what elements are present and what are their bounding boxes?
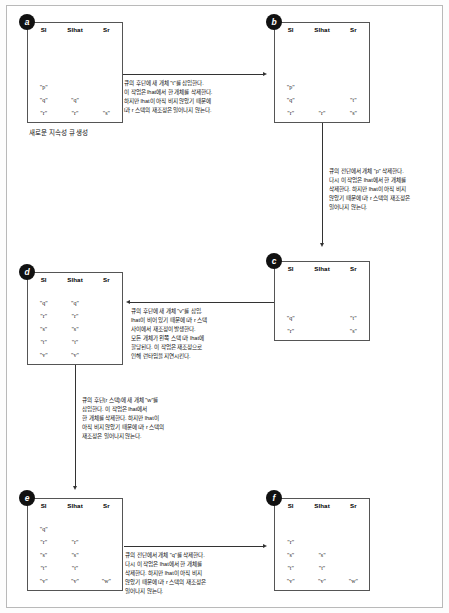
panel-e-column-headers: Sl Slhat Sr <box>28 502 122 509</box>
cell: "t" <box>28 565 59 571</box>
table-row: "q" "t" <box>275 311 369 324</box>
panel-box-f: Sl Slhat Sr "r" "s" "s" "t" "t" <box>274 498 370 591</box>
cell: "r" <box>275 539 306 545</box>
note-line: 일어나지 않는다. <box>329 203 410 212</box>
cell: "r" <box>306 110 337 116</box>
panel-d-column-headers: Sl Slhat Sr <box>28 276 122 283</box>
note-line: 이 작업은 lhat에서 한 개체를 삭제한다. <box>124 88 212 97</box>
table-row: "v" "v" <box>28 348 122 361</box>
panel-b-column-headers: Sl Slhat Sr <box>275 26 369 33</box>
cell: "r" <box>28 110 59 116</box>
connector-e-to-f <box>124 546 264 547</box>
table-row: "s" "s" <box>275 548 369 561</box>
table-row: "p" <box>275 80 369 93</box>
panel-badge-b: b <box>266 14 282 30</box>
panel-a-col-slhat: Slhat <box>59 26 90 33</box>
panel-e-rows: "q" "r" "r" "s" "s" "t" "t" <box>28 522 122 587</box>
table-row: "r" "r" "s" <box>28 106 122 119</box>
note-line: 하지만 lhat이 아직 비지 않았기 때문에 <box>124 97 212 106</box>
arrow-head-a-to-b <box>263 72 267 76</box>
note-line: 삽입한다. 이 작업은 lhat에서 <box>82 405 164 414</box>
arrow-head-c-to-d <box>126 300 130 304</box>
note-line: 한 개체를 삭제한다. 하지만 lhat이 <box>82 414 164 423</box>
table-row: "v" "v" "w" <box>275 574 369 587</box>
note-line: 큐의 전단에서 개체 "p" 삭제한다. <box>329 167 410 176</box>
table-row: "q" "q" <box>28 296 122 309</box>
cell: "t" <box>59 339 90 345</box>
note-line: 사이에서 재조정이 발생한다. <box>131 325 207 334</box>
cell: "v" <box>275 578 306 584</box>
arrow-head-e-to-f <box>263 544 267 548</box>
panel-f-column-headers: Sl Slhat Sr <box>275 502 369 509</box>
cell: "r" <box>59 539 90 545</box>
arrow-head-d-to-e <box>73 486 77 490</box>
cell: "r" <box>59 313 90 319</box>
note-line: 모든 개체가 왼쪽 스택 l과 lhat에 <box>131 334 207 343</box>
note-line: 큐의 후단에 새 개체 "t"를 삽입한다. <box>124 79 212 88</box>
table-row: "s" "s" <box>28 548 122 561</box>
panel-badge-f: f <box>266 490 282 506</box>
note-line: lhat이 비어 있기 때문에 l과 r 스택 <box>131 316 207 325</box>
panel-a-column-headers: Sl Slhat Sr <box>28 26 122 33</box>
panel-b-col-sr: Sr <box>338 26 369 33</box>
figure-page: a Sl Slhat Sr "p" "q" "q" "r" <box>0 0 449 613</box>
cell: "q" <box>275 315 306 321</box>
panel-a-rows: "p" "q" "q" "r" "r" "s" <box>28 80 122 119</box>
panel-box-b: Sl Slhat Sr "p" "q" "t" "r" "r" <box>274 22 370 123</box>
panel-d-col-slhat: Slhat <box>59 276 90 283</box>
panel-box-c: Sl Slhat Sr "q" "t" "r" "s" <box>274 261 370 341</box>
table-row: "v" "v" "w" <box>28 574 122 587</box>
cell: "s" <box>338 328 369 334</box>
connector-b-to-c <box>322 123 323 244</box>
connector-d-to-e <box>75 365 76 487</box>
note-line: 큐의 전단에서 개체 "q"를 삭제한다. <box>125 551 206 560</box>
cell: "s" <box>28 552 59 558</box>
cell: "q" <box>28 97 59 103</box>
cell: "v" <box>59 578 90 584</box>
panel-b-rows: "p" "q" "t" "r" "r" "s" <box>275 80 369 119</box>
arrow-head-b-to-c <box>320 243 324 247</box>
cell: "r" <box>28 313 59 319</box>
cell: "t" <box>338 315 369 321</box>
cell: "w" <box>91 578 122 584</box>
table-row: "r" "r" <box>28 309 122 322</box>
cell: "q" <box>28 526 59 532</box>
note-c-to-d: 큐의 후단에 새 개체 "v"를 삽입. lhat이 비어 있기 때문에 l과 … <box>131 307 207 361</box>
note-d-to-e: 큐의 후단(r 스택)에 새 개체 "w"를 삽입한다. 이 작업은 lhat에… <box>82 396 164 441</box>
cell: "s" <box>306 552 337 558</box>
cell: "t" <box>306 565 337 571</box>
connector-c-to-d <box>130 302 274 303</box>
table-row: "r" "r" "s" <box>275 106 369 119</box>
cell: "v" <box>59 352 90 358</box>
note-line: 다시 이 작업은 lhat에서 한 개체를 <box>125 560 206 569</box>
panel-a-caption: 새로운 지속성 큐 생성 <box>29 127 88 137</box>
table-row: "q" <box>28 522 122 535</box>
cell: "q" <box>28 300 59 306</box>
panel-c-column-headers: Sl Slhat Sr <box>275 265 369 272</box>
cell: "q" <box>59 300 90 306</box>
cell: "p" <box>275 84 306 90</box>
panel-d-col-sr: Sr <box>91 276 122 283</box>
table-row: "r" <box>275 535 369 548</box>
figure-frame: a Sl Slhat Sr "p" "q" "q" "r" <box>6 5 443 608</box>
cell: "r" <box>28 539 59 545</box>
table-row: "t" "t" <box>28 335 122 348</box>
panel-badge-e: e <box>19 490 35 506</box>
table-row: "q" "q" <box>28 93 122 106</box>
cell: "p" <box>28 84 59 90</box>
note-a-to-b: 큐의 후단에 새 개체 "t"를 삽입한다. 이 작업은 lhat에서 한 개체… <box>124 79 212 115</box>
panel-f-rows: "r" "s" "s" "t" "t" "v" "v" "w" <box>275 535 369 587</box>
table-row: "s" "s" <box>28 322 122 335</box>
note-line: 아직 비지 않았기 때문에 l과 r 스택의 <box>82 423 164 432</box>
cell: "v" <box>306 578 337 584</box>
note-line: 할당된다. 이 작업은 재조정으로 <box>131 343 207 352</box>
cell: "s" <box>59 326 90 332</box>
note-line: 않았기 때문에 l과 r 스택의 재조정은 <box>329 194 410 203</box>
cell: "s" <box>91 110 122 116</box>
cell: "t" <box>275 565 306 571</box>
panel-a-col-sr: Sr <box>91 26 122 33</box>
panel-e-col-sr: Sr <box>91 502 122 509</box>
panel-box-a: Sl Slhat Sr "p" "q" "q" "r" "r" <box>27 22 123 123</box>
panel-f-col-sr: Sr <box>338 502 369 509</box>
table-row: "q" "t" <box>275 93 369 106</box>
